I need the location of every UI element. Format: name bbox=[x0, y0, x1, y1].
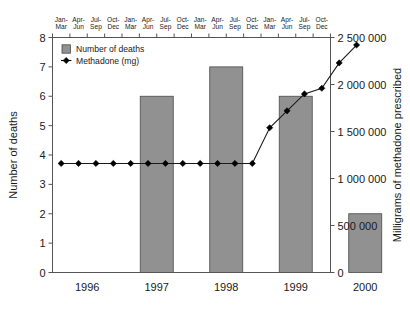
bars-group bbox=[140, 67, 382, 273]
y-axis-left: 012345678 bbox=[39, 32, 52, 279]
y-tick-label: 0 bbox=[39, 267, 45, 279]
quarter-label-top: Oct- bbox=[107, 16, 119, 23]
data-point-marker[interactable] bbox=[110, 160, 116, 166]
data-point-marker[interactable] bbox=[128, 160, 134, 166]
bar-1997[interactable] bbox=[140, 96, 173, 272]
y-axis-title-left: Number of deaths bbox=[7, 111, 19, 199]
y2-tick-label: 500 000 bbox=[338, 220, 378, 232]
quarter-label-bottom: Jun bbox=[282, 23, 293, 30]
quarter-label-bottom: Mar bbox=[264, 23, 276, 30]
quarter-label-top: Jan- bbox=[194, 16, 207, 23]
y-tick-label: 4 bbox=[39, 149, 45, 161]
y-tick-label: 6 bbox=[39, 90, 45, 102]
combo-chart: 012345678Number of deaths0500 0001 000 0… bbox=[0, 0, 410, 311]
y-tick-label: 3 bbox=[39, 178, 45, 190]
year-label: 1997 bbox=[145, 281, 169, 293]
quarter-label-bottom: Dec bbox=[316, 23, 328, 30]
data-point-marker[interactable] bbox=[93, 160, 99, 166]
y2-tick-label: 1 000 000 bbox=[338, 173, 387, 185]
quarter-label-bottom: Jun bbox=[73, 23, 84, 30]
quarter-label-bottom: Sep bbox=[160, 23, 172, 31]
quarter-label-bottom: Sep bbox=[299, 23, 311, 31]
data-point-marker[interactable] bbox=[197, 160, 203, 166]
y2-tick-label: 2 500 000 bbox=[338, 32, 387, 44]
quarter-label-top: Oct- bbox=[316, 16, 328, 23]
data-point-marker[interactable] bbox=[58, 160, 64, 166]
legend-swatch-deaths bbox=[62, 45, 70, 53]
quarter-label-bottom: Dec bbox=[107, 23, 119, 30]
bar-1999[interactable] bbox=[279, 96, 312, 272]
quarter-label-bottom: Mar bbox=[195, 23, 207, 30]
legend-label: Methadone (mg) bbox=[76, 56, 139, 66]
y-axis-title-right: Milligrams of methadone prescribed bbox=[391, 68, 403, 242]
year-label: 1999 bbox=[284, 281, 308, 293]
quarter-label-bottom: Jun bbox=[212, 23, 223, 30]
y-tick-label: 1 bbox=[39, 237, 45, 249]
chart-figure: 012345678Number of deaths0500 0001 000 0… bbox=[0, 0, 410, 311]
quarter-label-top: Jan- bbox=[55, 16, 68, 23]
legend-marker-methadone bbox=[63, 57, 69, 63]
y-tick-label: 7 bbox=[39, 61, 45, 73]
year-label: 2000 bbox=[353, 281, 377, 293]
legend-label: Number of deaths bbox=[76, 44, 144, 54]
y-tick-label: 8 bbox=[39, 32, 45, 44]
quarter-label-bottom: Dec bbox=[246, 23, 258, 30]
quarter-label-bottom: Mar bbox=[125, 23, 137, 30]
quarter-label-top: Oct- bbox=[246, 16, 258, 23]
quarter-label-bottom: Sep bbox=[229, 23, 241, 31]
quarter-label-top: Jul- bbox=[230, 16, 241, 23]
quarter-label-top: Jan- bbox=[263, 16, 276, 23]
quarter-label-bottom: Jun bbox=[143, 23, 154, 30]
bar-1998[interactable] bbox=[210, 67, 243, 273]
quarter-label-top: Oct- bbox=[177, 16, 189, 23]
year-label: 1996 bbox=[75, 281, 99, 293]
quarter-label-top: Jan- bbox=[124, 16, 137, 23]
quarter-label-bottom: Mar bbox=[56, 23, 68, 30]
quarter-label-top: Jul- bbox=[299, 16, 310, 23]
y2-tick-label: 1 500 000 bbox=[338, 126, 387, 138]
quarter-label-top: Jul- bbox=[91, 16, 102, 23]
y-tick-label: 5 bbox=[39, 120, 45, 132]
data-point-marker[interactable] bbox=[249, 160, 255, 166]
y-tick-label: 2 bbox=[39, 208, 45, 220]
data-point-marker[interactable] bbox=[75, 160, 81, 166]
quarter-label-top: Jul- bbox=[160, 16, 171, 23]
data-point-marker[interactable] bbox=[319, 85, 325, 91]
legend: Number of deathsMethadone (mg) bbox=[61, 44, 144, 65]
x-axis-years: 19961997199819992000 bbox=[75, 281, 377, 293]
top-quarter-axis: Jan-MarApr-JunJul-SepOct-DecJan-MarApr-J… bbox=[53, 16, 331, 38]
quarter-label-bottom: Sep bbox=[90, 23, 102, 31]
data-point-marker[interactable] bbox=[180, 160, 186, 166]
y2-tick-label: 0 bbox=[338, 267, 344, 279]
y2-tick-label: 2 000 000 bbox=[338, 79, 387, 91]
year-label: 1998 bbox=[214, 281, 238, 293]
quarter-label-bottom: Dec bbox=[177, 23, 189, 30]
